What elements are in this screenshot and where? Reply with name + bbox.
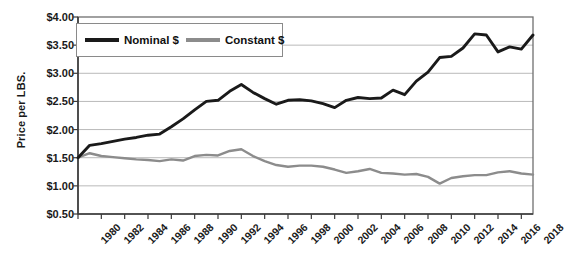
- x-axis-tick-label: 1984: [144, 221, 169, 246]
- x-axis-tick-label: 2004: [378, 221, 403, 246]
- x-axis-tick-label: 1992: [238, 221, 263, 246]
- x-axis-tick-label: 2000: [331, 221, 356, 246]
- x-axis-tick-label: 2014: [494, 221, 519, 246]
- x-axis-tick-label: 1982: [121, 221, 146, 246]
- x-axis-tick-label: 2012: [471, 221, 496, 246]
- x-axis-tick-label: 1990: [214, 221, 239, 246]
- x-axis-tick-label: 2016: [518, 221, 543, 246]
- x-axis-tick-label: 1980: [98, 221, 123, 246]
- legend-entry: Constant $: [186, 34, 284, 46]
- x-axis-tick-label: 1998: [308, 221, 333, 246]
- x-axis-tick-label: 1988: [191, 221, 216, 246]
- legend-label: Constant $: [225, 34, 284, 46]
- chart-legend: Nominal $Constant $: [76, 23, 283, 57]
- x-axis-tick-label: 2006: [401, 221, 426, 246]
- x-axis-tick-label: 2018: [541, 221, 566, 246]
- x-axis-tick-label: 1986: [168, 221, 193, 246]
- x-axis-tick-label: 1994: [261, 221, 286, 246]
- x-axis-tick-label: 2002: [354, 221, 379, 246]
- legend-swatch-icon: [85, 38, 119, 42]
- legend-entry: Nominal $: [85, 34, 179, 46]
- legend-label: Nominal $: [124, 34, 179, 46]
- x-axis-tick-label: 2008: [424, 221, 449, 246]
- x-axis-tick-label: 2010: [448, 221, 473, 246]
- legend-swatch-icon: [186, 38, 220, 42]
- x-axis-tick-label: 1996: [284, 221, 309, 246]
